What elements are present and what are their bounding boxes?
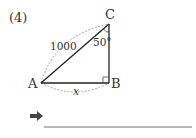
side-ac — [41, 24, 109, 83]
hypotenuse-label: 1000 — [50, 41, 77, 52]
vertex-label-b: B — [111, 77, 121, 90]
unknown-label: x — [73, 86, 79, 97]
angle-arc-c — [104, 29, 110, 32]
vertex-label-a: A — [28, 77, 37, 90]
answer-line[interactable] — [44, 126, 192, 128]
right-arrow-icon — [30, 111, 44, 121]
vertex-label-c: C — [105, 8, 115, 21]
angle-label: 50° — [93, 37, 112, 48]
right-angle-marker — [103, 77, 109, 83]
